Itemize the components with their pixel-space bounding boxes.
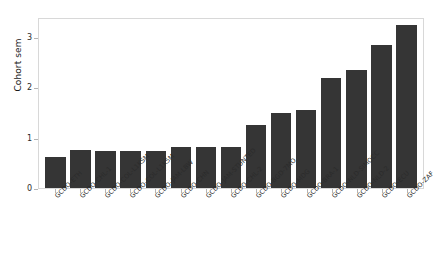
y-tick-label: 3 <box>20 34 32 42</box>
bar-slot <box>68 19 93 188</box>
bar-slot <box>319 19 344 188</box>
y-tick-label: 1 <box>20 135 32 143</box>
y-tick-label: 0 <box>20 185 32 193</box>
y-tick-mark <box>34 189 38 190</box>
bar-slot <box>43 19 68 188</box>
bar[interactable] <box>396 25 417 188</box>
bar-slot <box>294 19 319 188</box>
y-tick-label: 2 <box>20 84 32 92</box>
bar-slot <box>93 19 118 188</box>
bar-slot <box>394 19 419 188</box>
bar-chart-figure: Cohort sem 0123 GCDO-ETHGCDO-CHL-1GCDO-C… <box>0 0 448 277</box>
bar-slot <box>193 19 218 188</box>
